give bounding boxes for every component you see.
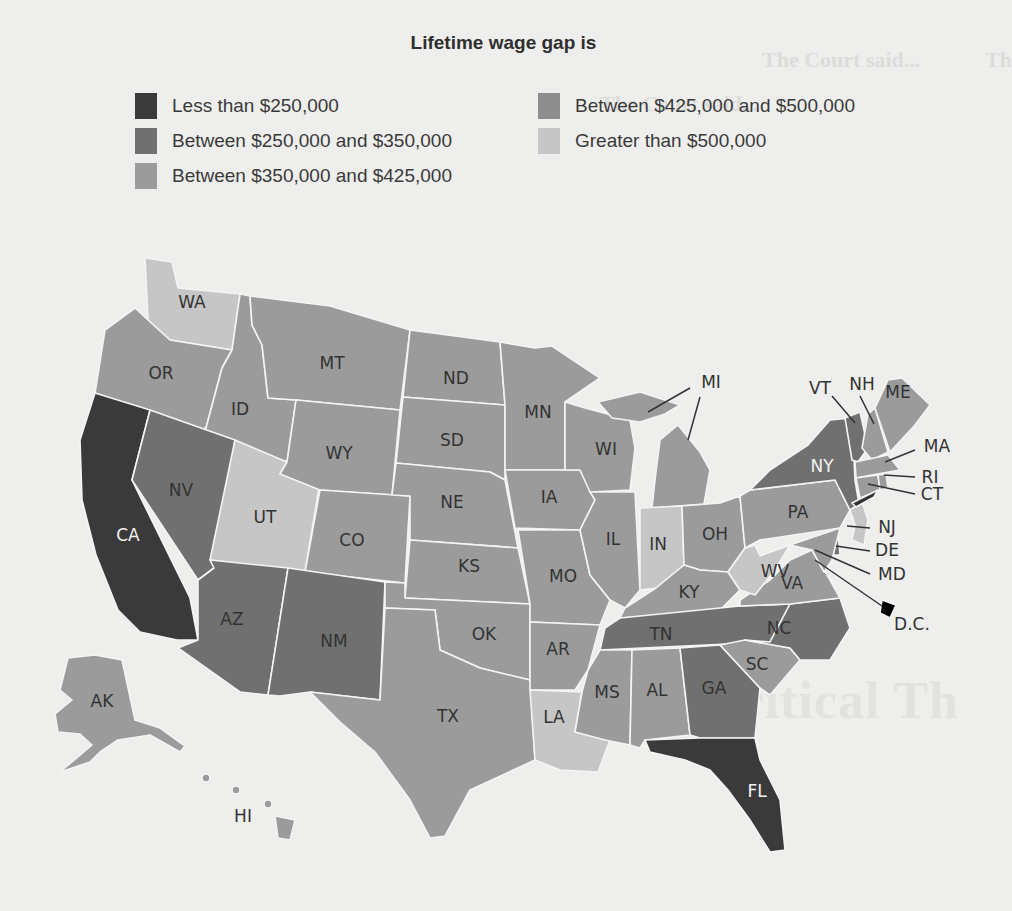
hi-island — [232, 786, 240, 794]
hi-island — [264, 800, 272, 808]
hi-island — [202, 774, 210, 782]
leader-ri — [884, 475, 915, 477]
label-nc: NC — [767, 618, 792, 638]
label-sd: SD — [440, 430, 464, 450]
label-me: ME — [885, 382, 910, 402]
label-nm: NM — [320, 631, 347, 651]
label-az: AZ — [220, 609, 243, 629]
label-hi: HI — [234, 806, 252, 826]
label-mi: MI — [701, 372, 721, 392]
label-nj: NJ — [878, 517, 896, 537]
label-wv: WV — [761, 561, 790, 581]
label-mt: MT — [319, 353, 345, 373]
leader-mi-lower — [688, 397, 700, 440]
label-ma: MA — [924, 436, 951, 456]
label-md: MD — [878, 564, 906, 584]
label-wa: WA — [178, 292, 206, 312]
label-mn: MN — [524, 402, 551, 422]
label-ny: NY — [810, 456, 834, 476]
label-oh: OH — [702, 524, 728, 544]
label-ak: AK — [91, 691, 115, 711]
label-mo: MO — [549, 566, 577, 586]
label-ms: MS — [594, 682, 619, 702]
label-ct: CT — [921, 484, 944, 504]
label-ky: KY — [679, 582, 701, 602]
label-nh: NH — [849, 374, 875, 394]
label-ga: GA — [702, 678, 727, 698]
label-in: IN — [649, 534, 667, 554]
label-tx: TX — [436, 706, 459, 726]
label-ok: OK — [472, 624, 497, 644]
label-nv: NV — [169, 480, 194, 500]
label-il: IL — [606, 529, 621, 549]
label-ia: IA — [541, 487, 558, 507]
label-wi: WI — [595, 439, 617, 459]
label-dc: D.C. — [894, 614, 930, 634]
label-sc: SC — [746, 654, 769, 674]
label-or: OR — [148, 363, 173, 383]
state-ak[interactable] — [55, 655, 185, 772]
label-al: AL — [646, 680, 668, 700]
state-mi-lower[interactable] — [652, 425, 710, 508]
label-ar: AR — [546, 639, 570, 659]
label-ut: UT — [254, 507, 277, 527]
label-co: CO — [339, 530, 364, 550]
leader-de — [836, 546, 870, 551]
label-ca: CA — [116, 525, 140, 545]
state-hi[interactable] — [275, 816, 295, 840]
label-wy: WY — [325, 443, 353, 463]
label-pa: PA — [788, 502, 809, 522]
label-vt: VT — [809, 378, 832, 398]
label-id: ID — [231, 399, 249, 419]
label-ne: NE — [440, 492, 463, 512]
label-fl: FL — [747, 781, 767, 801]
state-nj[interactable] — [850, 502, 868, 545]
label-ks: KS — [458, 556, 480, 576]
label-de: DE — [875, 540, 899, 560]
label-nd: ND — [443, 368, 469, 388]
label-tn: TN — [648, 624, 672, 644]
label-la: LA — [543, 707, 565, 727]
